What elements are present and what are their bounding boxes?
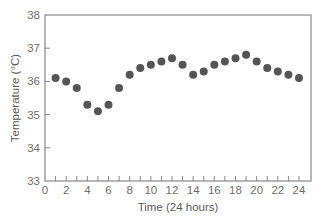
y-axis: 333435363738 (27, 9, 50, 187)
data-point (189, 71, 197, 79)
x-tick-label: 2 (63, 184, 69, 196)
y-tick-label: 35 (27, 109, 40, 121)
data-point (295, 74, 303, 82)
data-point (168, 54, 176, 62)
data-point (94, 107, 102, 115)
x-tick-label: 6 (105, 184, 111, 196)
y-tick-label: 38 (27, 9, 40, 21)
x-tick-label: 4 (84, 184, 91, 196)
data-point (232, 54, 240, 62)
data-point (179, 61, 187, 69)
x-tick-label: 10 (144, 184, 157, 196)
data-point (147, 61, 155, 69)
y-tick-label: 37 (27, 42, 40, 54)
temperature-scatter-chart: 333435363738 024681012141618202224 Time … (0, 0, 318, 219)
x-tick-label: 14 (187, 184, 200, 196)
data-point (126, 71, 134, 79)
x-tick-label: 20 (250, 184, 263, 196)
y-axis-title: Temperature (°C) (9, 54, 21, 142)
data-point (62, 77, 70, 85)
y-tick-label: 36 (27, 75, 40, 87)
data-point (157, 57, 165, 65)
plot-frame (45, 15, 311, 181)
data-point (105, 101, 113, 109)
data-point (274, 67, 282, 75)
data-point (253, 57, 261, 65)
plot-border (45, 15, 311, 181)
data-point (263, 64, 271, 72)
y-tick-label: 34 (27, 142, 40, 154)
data-point (200, 67, 208, 75)
x-axis: 024681012141618202224 (42, 176, 306, 196)
data-point (210, 61, 218, 69)
x-axis-title: Time (24 hours) (138, 201, 219, 213)
x-tick-label: 12 (166, 184, 179, 196)
x-tick-label: 24 (293, 184, 306, 196)
x-tick-label: 8 (126, 184, 132, 196)
data-point (284, 71, 292, 79)
x-tick-label: 16 (208, 184, 221, 196)
data-point (52, 74, 60, 82)
data-point (73, 84, 81, 92)
y-tick-label: 33 (27, 175, 40, 187)
x-tick-label: 22 (271, 184, 284, 196)
data-points (52, 51, 303, 115)
x-tick-label: 18 (229, 184, 242, 196)
data-point (136, 64, 144, 72)
x-tick-label: 0 (42, 184, 48, 196)
data-point (242, 51, 250, 59)
data-point (83, 101, 91, 109)
data-point (221, 57, 229, 65)
data-point (115, 84, 123, 92)
